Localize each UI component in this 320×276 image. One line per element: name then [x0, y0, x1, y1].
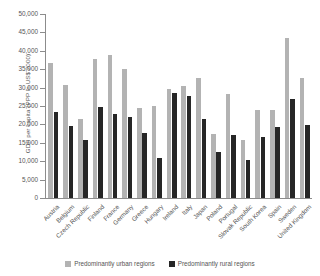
y-axis-tick-label: 20,000 [0, 120, 38, 127]
bar-urban [226, 94, 231, 198]
y-axis-tick-label: 40,000 [0, 47, 38, 54]
bar-urban [270, 110, 275, 198]
bar-urban [167, 89, 172, 198]
bar-rural [83, 140, 88, 198]
bar-rural [54, 112, 59, 198]
bar-rural [172, 93, 177, 198]
bar-urban [211, 134, 216, 198]
y-axis-tick-label: 30,000 [0, 84, 38, 91]
bar-rural [157, 158, 162, 198]
legend-label: Predominantly urban regions [74, 260, 155, 267]
bar-rural [113, 114, 118, 198]
legend-label: Predominantly rural regions [178, 260, 255, 267]
bar-urban [285, 38, 290, 198]
bar-urban [300, 78, 305, 198]
y-axis-tick-label: 15,000 [0, 139, 38, 146]
bar-rural [69, 126, 74, 198]
gdp-per-capita-bar-chart: GDP per capita (PPP in US$ 2000) 05,0001… [0, 0, 320, 276]
legend-swatch-icon [65, 261, 71, 267]
bar-rural [128, 117, 133, 198]
bar-rural [142, 133, 147, 198]
chart-legend: Predominantly urban regionsPredominantly… [0, 260, 320, 267]
bar-urban [137, 108, 142, 198]
bar-urban [122, 69, 127, 198]
bar-rural [246, 160, 251, 198]
legend-swatch-icon [169, 261, 175, 267]
bar-urban [78, 119, 83, 198]
y-axis-tick [40, 198, 46, 199]
bar-urban [241, 140, 246, 199]
y-axis-tick-label: 5,000 [0, 176, 38, 183]
bar-rural [202, 119, 207, 198]
bar-rural [261, 137, 266, 198]
y-axis-tick-label: 10,000 [0, 157, 38, 164]
bar-urban [255, 110, 260, 198]
bar-urban [93, 59, 98, 198]
bar-rural [98, 107, 103, 198]
bar-rural [275, 127, 280, 198]
bar-rural [290, 99, 295, 198]
bar-urban [152, 106, 157, 198]
bar-rural [216, 152, 221, 198]
y-axis-tick-label: 35,000 [0, 65, 38, 72]
y-axis-tick-label: 50,000 [0, 10, 38, 17]
bar-rural [187, 96, 192, 198]
x-axis-line [45, 198, 312, 199]
bar-urban [196, 78, 201, 198]
bar-urban [181, 86, 186, 198]
bar-urban [48, 63, 53, 198]
legend-item: Predominantly urban regions [65, 260, 155, 267]
y-axis-tick-label: 45,000 [0, 28, 38, 35]
bar-urban [63, 85, 68, 198]
y-axis-tick-label: 0 [0, 194, 38, 201]
bar-urban [108, 55, 113, 198]
plot-area [46, 14, 312, 198]
bar-rural [305, 125, 310, 198]
bar-rural [231, 135, 236, 198]
legend-item: Predominantly rural regions [169, 260, 255, 267]
y-axis-tick-label: 25,000 [0, 102, 38, 109]
